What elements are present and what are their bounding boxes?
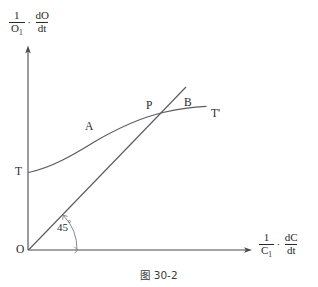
- y-axis-label: 1 O1 · dO dt: [9, 10, 51, 34]
- x-axis-label-denominator: C1: [259, 244, 274, 257]
- y-axis-label-denominator-base: O: [11, 22, 19, 34]
- x-axis-label-numerator: 1: [262, 232, 272, 244]
- y-axis-label-numerator: 1: [12, 10, 22, 22]
- y-axis-label-rate: dO dt: [33, 10, 50, 34]
- y-axis-label-denominator-subscript: 1: [19, 28, 23, 37]
- angle-value: 45: [57, 221, 68, 233]
- y-axis: [25, 46, 31, 251]
- curve-segment-b-label: B: [184, 97, 192, 109]
- origin-label: O: [16, 244, 24, 256]
- forty-five-degree-line: [29, 87, 187, 250]
- x-axis-label-rate: dC dt: [283, 232, 300, 256]
- y-axis-label-rate-denominator: dt: [36, 22, 49, 35]
- x-axis-label-fraction: 1 C1: [259, 232, 274, 256]
- intersection-label-p: P: [146, 100, 152, 112]
- x-axis-label-rate-numerator: dC: [283, 232, 300, 244]
- curve-end-label-t-prime: T': [211, 108, 220, 120]
- x-axis-label-rate-denominator: dt: [285, 244, 298, 257]
- tt-prime-curve: [29, 106, 207, 172]
- y-axis-label-operator: ·: [25, 16, 34, 28]
- y-axis-label-denominator: O1: [9, 22, 25, 35]
- x-axis-label: 1 C1 · dC dt: [259, 232, 300, 256]
- angle-label: 45°: [57, 222, 71, 233]
- degree-symbol: °: [68, 219, 71, 228]
- curve-segment-a-label: A: [85, 121, 93, 133]
- figure-caption: 图 30-2: [0, 267, 318, 282]
- x-axis: [28, 247, 252, 253]
- y-axis-label-fraction: 1 O1: [9, 10, 25, 34]
- x-axis-label-denominator-subscript: 1: [268, 250, 272, 259]
- figure-container: ........................................…: [0, 0, 318, 287]
- y-axis-label-rate-numerator: dO: [33, 10, 50, 22]
- x-axis-label-operator: ·: [274, 238, 283, 250]
- curve-start-label-t: T: [15, 166, 22, 178]
